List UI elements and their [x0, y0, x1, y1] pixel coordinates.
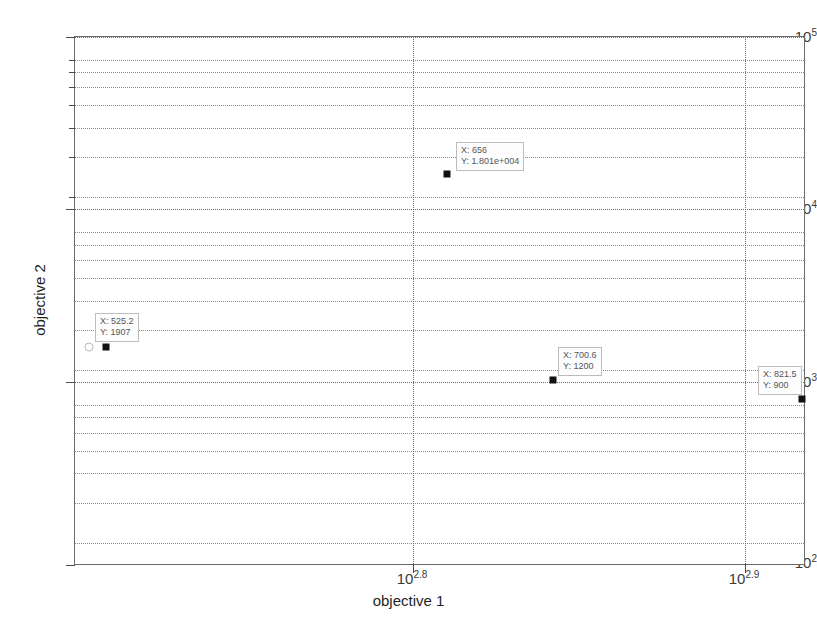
gridline-y-minor [75, 197, 804, 198]
y-axis-title: objective 2 [31, 264, 48, 336]
plot-area: X: 525.2 Y: 1907 X: 656 Y: 1.801e+004 X:… [74, 36, 805, 565]
y-tick-mark [69, 87, 75, 88]
y-tick-exponent: 3 [811, 372, 817, 383]
x-tick-mark [413, 564, 414, 573]
datatip-y-value: Y: 1200 [563, 361, 597, 372]
gridline-y-minor [75, 245, 804, 246]
y-tick-mark [66, 382, 75, 383]
datatip-y-value: Y: 900 [763, 380, 797, 391]
data-point[interactable] [799, 396, 806, 403]
x-tick-label-1e2p9: 102.9 [729, 570, 760, 587]
gridline-x-1e2p9 [745, 37, 746, 564]
gridline-y-minor [75, 232, 804, 233]
gridline-y-minor [75, 157, 804, 158]
x-tick-mantissa: 10 [397, 570, 414, 587]
y-tick-mark [69, 72, 75, 73]
x-tick-exponent: 2.8 [413, 569, 427, 580]
gridline-y-minor [75, 128, 804, 129]
x-axis-title: objective 1 [0, 592, 817, 609]
y-tick-mark [69, 197, 75, 198]
gridline-y-minor [75, 543, 804, 544]
x-tick-label-1e2p8: 102.8 [397, 570, 428, 587]
gridline-y-minor [75, 87, 804, 88]
gridline-y-1e3 [75, 382, 804, 383]
y-tick-mark [66, 209, 75, 210]
gridline-y-minor [75, 405, 804, 406]
gridline-x-1e2p8 [413, 37, 414, 564]
x-tick-mantissa: 10 [729, 570, 746, 587]
gridline-y-minor [75, 278, 804, 279]
datatip-x-value: X: 525.2 [100, 316, 134, 327]
datatip[interactable]: X: 525.2 Y: 1907 [95, 313, 139, 342]
figure-canvas: 105 104 103 102 102.8 102.9 objective 1 … [0, 0, 817, 624]
y-tick-exponent: 2 [811, 553, 817, 564]
data-point[interactable] [444, 171, 451, 178]
datatip-x-value: X: 821.5 [763, 369, 797, 380]
y-tick-mark [69, 105, 75, 106]
y-tick-exponent: 4 [811, 199, 817, 210]
data-point[interactable] [103, 344, 110, 351]
datatip[interactable]: X: 700.6 Y: 1200 [558, 347, 602, 376]
gridline-y-1e4 [75, 209, 804, 210]
gridline-y-minor [75, 370, 804, 371]
y-tick-exponent: 5 [811, 27, 817, 38]
datatip[interactable]: X: 656 Y: 1.801e+004 [456, 142, 524, 171]
datatip-x-value: X: 700.6 [563, 350, 597, 361]
y-tick-mark [69, 60, 75, 61]
y-tick-mark [69, 128, 75, 129]
gridline-y-minor [75, 433, 804, 434]
gridline-y-minor [75, 473, 804, 474]
datatip-y-value: Y: 1.801e+004 [461, 156, 519, 167]
gridline-y-minor [75, 60, 804, 61]
y-tick-mark [69, 157, 75, 158]
gridline-y-1e5 [75, 37, 804, 38]
gridline-y-minor [75, 105, 804, 106]
data-point[interactable] [550, 377, 557, 384]
gridline-y-minor [75, 260, 804, 261]
x-tick-mark [745, 564, 746, 573]
y-tick-mark [66, 565, 75, 566]
gridline-y-minor [75, 417, 804, 418]
datatip[interactable]: X: 821.5 Y: 900 [758, 366, 802, 395]
gridline-y-minor [75, 451, 804, 452]
gridline-y-minor [75, 503, 804, 504]
unselected-marker[interactable] [85, 343, 94, 352]
gridline-y-minor [75, 330, 804, 331]
gridline-y-minor [75, 72, 804, 73]
y-tick-mark [66, 37, 75, 38]
gridline-y-minor [75, 301, 804, 302]
x-tick-exponent: 2.9 [745, 569, 759, 580]
datatip-y-value: Y: 1907 [100, 327, 134, 338]
datatip-x-value: X: 656 [461, 145, 519, 156]
